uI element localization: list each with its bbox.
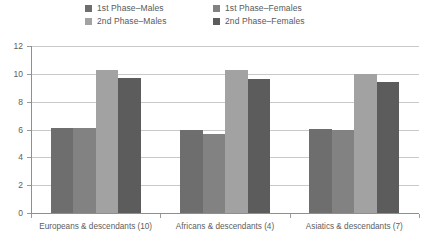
- bar[interactable]: [225, 70, 248, 213]
- bar-group: [51, 46, 141, 213]
- legend-swatch-icon: [213, 18, 220, 25]
- bar-group: [309, 46, 399, 213]
- plot-area: 121086420 Europeans & descendants (10)Af…: [31, 46, 419, 213]
- y-tick-label: 12: [14, 42, 23, 51]
- x-axis-category-label: Asiatics & descendants (7): [306, 222, 403, 232]
- bar-groups: [31, 46, 419, 213]
- x-axis-line: [31, 213, 419, 214]
- chart-legend: 1st Phase–Males 1st Phase–Females 2nd Ph…: [0, 3, 426, 26]
- x-axis-category-label: Europeans & descendants (10): [39, 222, 152, 232]
- bar[interactable]: [51, 128, 74, 213]
- bar[interactable]: [354, 74, 377, 213]
- bar[interactable]: [332, 130, 355, 213]
- x-tick-mark: [290, 214, 291, 218]
- legend-item-2nd-phase-females[interactable]: 2nd Phase–Females: [213, 16, 341, 26]
- legend-item-label: 1st Phase–Males: [97, 3, 164, 13]
- y-tick-label: 4: [18, 153, 23, 162]
- bar[interactable]: [377, 82, 400, 213]
- legend-item-1st-phase-males[interactable]: 1st Phase–Males: [85, 3, 213, 13]
- bar-chart: 1st Phase–Males 1st Phase–Females 2nd Ph…: [0, 0, 426, 244]
- legend-row: 1st Phase–Males 1st Phase–Females: [85, 3, 341, 13]
- x-tick-mark: [419, 214, 420, 218]
- bar[interactable]: [309, 129, 332, 213]
- legend-item-label: 2nd Phase–Females: [225, 16, 305, 26]
- legend-row: 2nd Phase–Males 2nd Phase–Females: [85, 16, 341, 26]
- y-tick-label: 8: [18, 97, 23, 106]
- bar[interactable]: [118, 78, 141, 213]
- y-tick-label: 6: [18, 125, 23, 134]
- bar[interactable]: [248, 79, 271, 213]
- y-tick-label: 10: [14, 70, 23, 79]
- legend-item-2nd-phase-males[interactable]: 2nd Phase–Males: [85, 16, 213, 26]
- legend-swatch-icon: [85, 5, 92, 12]
- bar-group: [180, 46, 270, 213]
- x-axis-category-label: Africans & descendants (4): [176, 222, 274, 232]
- bar[interactable]: [180, 130, 203, 213]
- legend-item-label: 1st Phase–Females: [225, 3, 302, 13]
- legend-swatch-icon: [85, 18, 92, 25]
- x-tick-mark: [31, 214, 32, 218]
- y-tick-label: 0: [18, 209, 23, 218]
- legend-item-label: 2nd Phase–Males: [97, 16, 167, 26]
- x-tick-mark: [160, 214, 161, 218]
- legend-item-1st-phase-females[interactable]: 1st Phase–Females: [213, 3, 341, 13]
- bar[interactable]: [96, 70, 119, 213]
- legend-swatch-icon: [213, 5, 220, 12]
- y-tick-label: 2: [18, 181, 23, 190]
- bar[interactable]: [203, 134, 226, 213]
- bar[interactable]: [73, 128, 96, 213]
